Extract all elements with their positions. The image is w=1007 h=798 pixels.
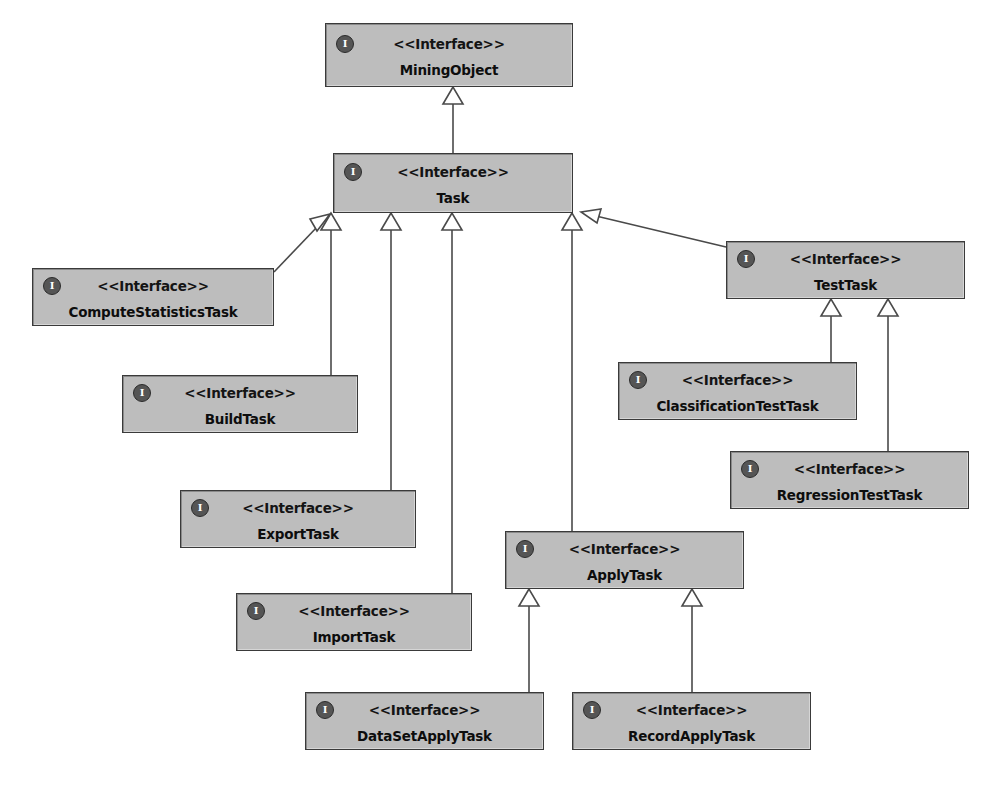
stereotype-row: I <<Interface>>: [33, 275, 273, 297]
class-name: ExportTask: [257, 526, 339, 542]
edge-exporttask-to-task: [381, 213, 401, 490]
stereotype-label: <<Interface>>: [794, 461, 906, 477]
interface-icon: I: [737, 250, 755, 268]
class-name: RecordApplyTask: [628, 728, 755, 744]
edge-task-to-miningobject: [443, 87, 463, 153]
class-name: ApplyTask: [587, 567, 662, 583]
stereotype-label: <<Interface>>: [97, 278, 209, 294]
class-name: ComputeStatisticsTask: [68, 304, 237, 320]
edge-datasetapplytask-to-applytask: [519, 589, 539, 692]
uml-class-classificationtesttask[interactable]: I <<Interface>> ClassificationTestTask: [618, 362, 857, 420]
stereotype-label: <<Interface>>: [369, 702, 481, 718]
stereotype-row: I <<Interface>>: [326, 33, 572, 55]
interface-icon: I: [43, 277, 61, 295]
stereotype-row: I <<Interface>>: [506, 538, 743, 560]
interface-icon: I: [583, 701, 601, 719]
uml-class-exporttask[interactable]: I <<Interface>> ExportTask: [180, 490, 416, 548]
edge-buildtask-to-task: [321, 213, 341, 375]
stereotype-row: I <<Interface>>: [181, 497, 415, 519]
interface-icon: I: [316, 701, 334, 719]
interface-icon: I: [247, 602, 265, 620]
edge-regressiontesttask-to-testtask: [878, 299, 898, 451]
class-name: RegressionTestTask: [777, 487, 923, 503]
class-name: ClassificationTestTask: [656, 398, 818, 414]
class-name: DataSetApplyTask: [357, 728, 492, 744]
stereotype-row: I <<Interface>>: [731, 458, 968, 480]
interface-icon: I: [741, 460, 759, 478]
uml-class-computestatisticstask[interactable]: I <<Interface>> ComputeStatisticsTask: [32, 268, 274, 326]
uml-class-importtask[interactable]: I <<Interface>> ImportTask: [236, 593, 472, 651]
stereotype-label: <<Interface>>: [184, 385, 296, 401]
edge-classificationtesttask-to-testtask: [821, 299, 841, 362]
stereotype-row: I <<Interface>>: [237, 600, 471, 622]
stereotype-label: <<Interface>>: [636, 702, 748, 718]
stereotype-label: <<Interface>>: [397, 164, 509, 180]
stereotype-label: <<Interface>>: [682, 372, 794, 388]
stereotype-label: <<Interface>>: [393, 36, 505, 52]
interface-icon: I: [191, 499, 209, 517]
class-name: MiningObject: [400, 62, 499, 78]
interface-icon: I: [344, 163, 362, 181]
uml-class-testtask[interactable]: I <<Interface>> TestTask: [726, 241, 965, 299]
interface-icon: I: [516, 540, 534, 558]
class-name: ImportTask: [313, 629, 396, 645]
uml-class-miningobject[interactable]: I <<Interface>> MiningObject: [325, 23, 573, 87]
edge-testtask-to-task: [581, 209, 726, 247]
interface-icon: I: [133, 384, 151, 402]
edge-computestatisticstask-to-task: [274, 214, 330, 272]
uml-class-regressiontesttask[interactable]: I <<Interface>> RegressionTestTask: [730, 451, 969, 509]
diagram-canvas: I <<Interface>> MiningObject I <<Interfa…: [0, 0, 1007, 798]
class-name: TestTask: [814, 277, 877, 293]
interface-icon: I: [336, 35, 354, 53]
stereotype-row: I <<Interface>>: [306, 699, 543, 721]
edge-applytask-to-task: [562, 213, 582, 531]
uml-class-task[interactable]: I <<Interface>> Task: [333, 153, 573, 213]
edge-importtask-to-task: [442, 213, 462, 593]
stereotype-row: I <<Interface>>: [619, 369, 856, 391]
stereotype-row: I <<Interface>>: [573, 699, 810, 721]
edge-recordapplytask-to-applytask: [682, 589, 702, 692]
stereotype-label: <<Interface>>: [790, 251, 902, 267]
stereotype-row: I <<Interface>>: [727, 248, 964, 270]
stereotype-label: <<Interface>>: [569, 541, 681, 557]
stereotype-row: I <<Interface>>: [334, 161, 572, 183]
stereotype-row: I <<Interface>>: [123, 382, 357, 404]
class-name: BuildTask: [205, 411, 276, 427]
uml-class-datasetapplytask[interactable]: I <<Interface>> DataSetApplyTask: [305, 692, 544, 750]
stereotype-label: <<Interface>>: [298, 603, 410, 619]
uml-class-recordapplytask[interactable]: I <<Interface>> RecordApplyTask: [572, 692, 811, 750]
uml-class-buildtask[interactable]: I <<Interface>> BuildTask: [122, 375, 358, 433]
class-name: Task: [437, 190, 470, 206]
uml-class-applytask[interactable]: I <<Interface>> ApplyTask: [505, 531, 744, 589]
interface-icon: I: [629, 371, 647, 389]
stereotype-label: <<Interface>>: [242, 500, 354, 516]
